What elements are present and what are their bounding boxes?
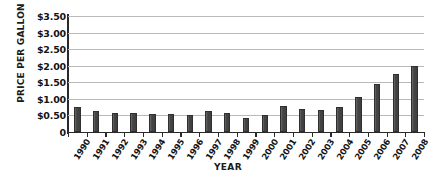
x-tick-label: 1997 [203,137,224,162]
x-tick-label: 2001 [278,137,299,162]
x-tick-label: 2002 [297,137,318,162]
y-tick-label: $3.00 [22,27,66,38]
bar [355,97,361,132]
x-tick-label: 2007 [390,137,411,162]
x-tick-label: 2003 [315,137,336,162]
x-tick-label: 2004 [334,137,355,162]
bar [168,114,174,132]
bar [74,107,80,132]
bar [336,107,342,132]
bar [187,115,193,132]
bar [112,113,118,132]
bar [374,84,380,132]
plot-area [68,16,424,132]
x-tick-label: 1990 [72,137,93,162]
x-tick-label: 2008 [409,137,430,162]
bar-chart-figure: PRICE PER GALLON $3.50$3.00$2.50$2.00$1.… [0,0,432,181]
y-tick-label: $1.50 [22,77,66,88]
bar [224,113,230,132]
bars-layer [68,16,424,132]
y-tick-label: $0.50 [22,110,66,121]
bar [262,115,268,132]
bar [299,109,305,132]
bar [280,106,286,133]
x-tick-label: 1999 [241,137,262,162]
y-axis-tick-labels: $3.50$3.00$2.50$2.00$1.50$1.00$0.500 [22,10,66,138]
x-tick-label: 1998 [222,137,243,162]
bar [411,66,417,132]
bar [318,110,324,132]
x-tick-label: 1994 [147,137,168,162]
bar [393,74,399,132]
x-tick-label: 1991 [91,137,112,162]
x-tick-label: 1992 [109,137,130,162]
y-tick-label: $2.00 [22,60,66,71]
x-tick-label: 2000 [259,137,280,162]
x-axis-title: YEAR [0,162,432,172]
x-tick-label: 2005 [353,137,374,162]
y-tick-label: 0 [22,127,66,138]
x-tick-label: 1995 [166,137,187,162]
x-tick-label: 1996 [184,137,205,162]
y-tick-label: $3.50 [22,11,66,22]
x-tick-label: 2006 [372,137,393,162]
bar [205,111,211,132]
y-tick-label: $1.00 [22,93,66,104]
x-tick-label: 1993 [128,137,149,162]
bar [93,111,99,132]
bar [149,114,155,132]
bar [243,118,249,132]
bar [130,113,136,132]
y-tick-label: $2.50 [22,44,66,55]
x-tick [424,132,425,137]
